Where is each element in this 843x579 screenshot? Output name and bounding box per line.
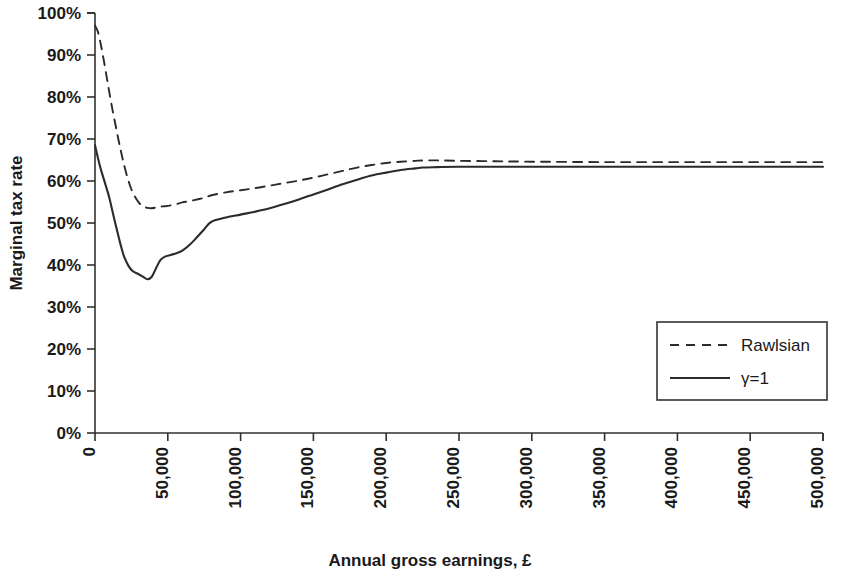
x-tick-label: 500,000 (808, 447, 827, 508)
chart-canvas: 0%10%20%30%40%50%60%70%80%90%100% 050,00… (0, 0, 843, 579)
x-tick-label: 300,000 (517, 447, 536, 508)
y-tick-label: 0% (56, 424, 81, 443)
marginal-tax-rate-chart: 0%10%20%30%40%50%60%70%80%90%100% 050,00… (0, 0, 843, 579)
y-tick-label: 70% (47, 130, 81, 149)
x-tick-label: 150,000 (298, 447, 317, 508)
x-tick-label: 250,000 (444, 447, 463, 508)
x-axis-ticks: 050,000100,000150,000200,000250,000300,0… (80, 433, 827, 508)
series-group (95, 26, 823, 280)
legend-label-gamma1: γ=1 (741, 369, 769, 388)
y-tick-label: 50% (47, 214, 81, 233)
x-tick-label: 450,000 (735, 447, 754, 508)
y-tick-label: 20% (47, 340, 81, 359)
chart-legend: Rawlsian γ=1 (657, 322, 827, 400)
x-tick-label: 100,000 (226, 447, 245, 508)
y-tick-label: 100% (38, 4, 81, 23)
y-tick-label: 40% (47, 256, 81, 275)
y-axis-title: Marginal tax rate (7, 155, 26, 290)
x-axis-title: Annual gross earnings, £ (328, 551, 532, 570)
legend-box (657, 322, 827, 400)
x-tick-label: 400,000 (662, 447, 681, 508)
y-tick-label: 30% (47, 298, 81, 317)
legend-label-rawlsian: Rawlsian (741, 336, 810, 355)
x-tick-label: 50,000 (153, 447, 172, 499)
y-tick-label: 60% (47, 172, 81, 191)
y-tick-label: 80% (47, 88, 81, 107)
x-tick-label: 350,000 (590, 447, 609, 508)
x-tick-label: 0 (80, 447, 99, 456)
x-tick-label: 200,000 (371, 447, 390, 508)
y-axis-ticks: 0%10%20%30%40%50%60%70%80%90%100% (38, 4, 95, 443)
series-line-rawlsian (95, 26, 823, 209)
y-tick-label: 90% (47, 46, 81, 65)
y-tick-label: 10% (47, 382, 81, 401)
series-line--1 (95, 145, 823, 279)
